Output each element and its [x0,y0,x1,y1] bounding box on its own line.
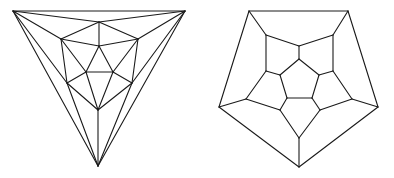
edge-I2-I3 [312,75,319,98]
edge-UR-C [99,39,138,46]
edge-TM-UL [61,22,99,39]
edge-N34-M4 [299,110,320,138]
edge-O5-O1 [219,11,249,107]
edge-M3-N34 [320,99,352,110]
edge-TL-TM [13,11,99,22]
edge-N23-M3 [333,71,352,99]
edge-N12-M2 [299,35,333,46]
edge-O3-M3 [352,99,378,107]
edge-O5-M5 [219,99,246,107]
edge-TR-B [98,11,185,166]
edge-I4-I5 [280,75,287,98]
edge-TR-LR [132,11,185,83]
edge-M4-N45 [280,110,299,138]
icosahedron-schlegel-diagram [13,11,185,166]
edge-B-LR [98,83,132,166]
edge-C-IR [99,46,113,72]
edge-O4-O5 [219,107,299,167]
edge-N45-M5 [246,99,280,110]
edge-I1-I2 [299,59,319,75]
edge-O2-O3 [348,11,378,107]
edge-TM-UR [99,22,138,39]
edge-IR-LR [113,72,132,83]
polyhedra-diagram [0,0,394,178]
edge-C-IL [86,46,99,72]
edge-N51-I5 [266,71,280,75]
edge-TL-LL [13,11,67,83]
edge-N34-I3 [312,98,320,110]
edge-M1-N12 [266,35,299,46]
edge-TR-UR [138,11,185,39]
edge-TR-TM [99,11,185,22]
edge-I5-I1 [280,59,299,75]
edge-N45-I4 [280,98,287,110]
dodecahedron-schlegel-diagram [219,11,378,167]
edge-N23-I2 [319,71,333,75]
edge-O3-O4 [299,107,378,167]
edge-O2-M2 [333,11,348,35]
edge-UL-C [61,39,99,46]
edge-IL-LL [67,72,86,83]
edge-M5-N51 [246,71,266,99]
edge-B-TL [13,11,98,166]
edge-O1-M1 [249,11,266,35]
